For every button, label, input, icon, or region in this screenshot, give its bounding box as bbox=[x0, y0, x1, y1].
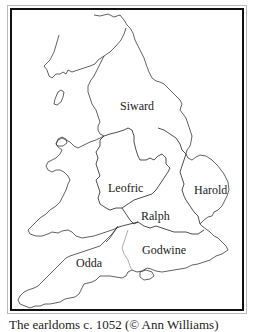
region-label-leofric: Leofric bbox=[108, 182, 143, 194]
region-label-ralph: Ralph bbox=[141, 210, 170, 222]
great-britain-coast bbox=[18, 28, 229, 308]
boundary-leofric-ralph-south bbox=[122, 208, 138, 224]
north-boundary bbox=[94, 14, 130, 28]
boundary-ralph-harold bbox=[186, 200, 200, 224]
boundary-siward-leofric bbox=[104, 128, 170, 172]
boundary-leofric-ralph bbox=[96, 136, 168, 210]
boundary-odda-godwine bbox=[122, 230, 132, 270]
region-label-godwine: Godwine bbox=[142, 244, 186, 256]
map-caption: The earldoms c. 1052 (© Ann Williams) bbox=[9, 318, 219, 332]
boundary-leofric-harold bbox=[180, 154, 186, 200]
isle-of-man bbox=[54, 90, 64, 105]
boundary-siward-harold bbox=[158, 128, 186, 154]
isle-of-wight bbox=[140, 270, 154, 280]
scotland-coast-west bbox=[44, 28, 126, 78]
boundary-ralph-godwine bbox=[116, 222, 204, 234]
region-label-harold: Harold bbox=[194, 184, 227, 196]
region-label-siward: Siward bbox=[120, 100, 154, 112]
region-label-odda: Odda bbox=[76, 257, 102, 269]
